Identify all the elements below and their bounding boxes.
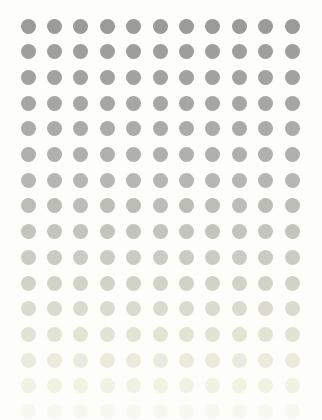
dot bbox=[126, 224, 141, 239]
dot bbox=[153, 276, 168, 291]
dot bbox=[205, 301, 220, 316]
dot bbox=[179, 147, 194, 162]
dot bbox=[21, 224, 36, 239]
dot bbox=[73, 250, 88, 265]
dot bbox=[126, 378, 141, 393]
dot bbox=[47, 276, 62, 291]
dot bbox=[232, 404, 247, 419]
dot bbox=[153, 301, 168, 316]
dot bbox=[47, 19, 62, 34]
dot bbox=[21, 378, 36, 393]
dot bbox=[21, 70, 36, 85]
dot bbox=[21, 96, 36, 111]
dot bbox=[232, 276, 247, 291]
dot bbox=[179, 198, 194, 213]
dot bbox=[232, 353, 247, 368]
dot bbox=[21, 301, 36, 316]
dot bbox=[73, 19, 88, 34]
dot bbox=[73, 404, 88, 419]
dot bbox=[285, 19, 300, 34]
dot bbox=[285, 147, 300, 162]
dot bbox=[205, 250, 220, 265]
dot bbox=[179, 404, 194, 419]
dot bbox=[258, 353, 273, 368]
dot bbox=[285, 121, 300, 136]
dot bbox=[73, 44, 88, 59]
dot bbox=[153, 96, 168, 111]
dot bbox=[47, 121, 62, 136]
dot bbox=[73, 378, 88, 393]
dot bbox=[285, 44, 300, 59]
dot bbox=[73, 173, 88, 188]
dot bbox=[126, 70, 141, 85]
dot bbox=[126, 173, 141, 188]
dot bbox=[232, 121, 247, 136]
dot bbox=[258, 44, 273, 59]
dot bbox=[153, 250, 168, 265]
dot bbox=[153, 327, 168, 342]
dot bbox=[258, 301, 273, 316]
dot bbox=[232, 19, 247, 34]
dot bbox=[100, 301, 115, 316]
dot bbox=[232, 70, 247, 85]
dot bbox=[126, 276, 141, 291]
dot bbox=[179, 224, 194, 239]
dot bbox=[179, 276, 194, 291]
dot bbox=[232, 173, 247, 188]
dot bbox=[73, 96, 88, 111]
dot bbox=[258, 70, 273, 85]
dot bbox=[73, 224, 88, 239]
dot bbox=[205, 173, 220, 188]
dot bbox=[258, 327, 273, 342]
dot bbox=[205, 198, 220, 213]
dot bbox=[73, 198, 88, 213]
dot bbox=[100, 327, 115, 342]
dot bbox=[153, 378, 168, 393]
dot bbox=[100, 276, 115, 291]
dot bbox=[126, 19, 141, 34]
dot bbox=[205, 404, 220, 419]
dot bbox=[126, 301, 141, 316]
dot bbox=[232, 378, 247, 393]
dot bbox=[205, 19, 220, 34]
dot bbox=[153, 70, 168, 85]
dot bbox=[47, 378, 62, 393]
dot bbox=[285, 173, 300, 188]
dot bbox=[232, 327, 247, 342]
dot bbox=[21, 19, 36, 34]
dot bbox=[73, 70, 88, 85]
dot bbox=[179, 327, 194, 342]
dot bbox=[205, 121, 220, 136]
dot bbox=[100, 173, 115, 188]
dot bbox=[285, 327, 300, 342]
dot bbox=[179, 44, 194, 59]
dot bbox=[100, 19, 115, 34]
dot bbox=[100, 250, 115, 265]
dot bbox=[100, 147, 115, 162]
dot bbox=[153, 404, 168, 419]
dot bbox=[47, 250, 62, 265]
dot bbox=[47, 96, 62, 111]
dot bbox=[21, 404, 36, 419]
dot bbox=[21, 327, 36, 342]
dot bbox=[285, 250, 300, 265]
dot bbox=[179, 121, 194, 136]
dot bbox=[205, 378, 220, 393]
dot bbox=[100, 378, 115, 393]
dot bbox=[126, 250, 141, 265]
dot bbox=[100, 198, 115, 213]
dot bbox=[21, 353, 36, 368]
dot bbox=[179, 96, 194, 111]
dot bbox=[285, 198, 300, 213]
dot bbox=[47, 404, 62, 419]
dot bbox=[100, 404, 115, 419]
dot bbox=[205, 327, 220, 342]
dot bbox=[258, 404, 273, 419]
dot bbox=[153, 198, 168, 213]
dot bbox=[232, 250, 247, 265]
dot bbox=[258, 276, 273, 291]
dot bbox=[126, 121, 141, 136]
dot bbox=[179, 173, 194, 188]
dot bbox=[126, 96, 141, 111]
dot bbox=[258, 173, 273, 188]
